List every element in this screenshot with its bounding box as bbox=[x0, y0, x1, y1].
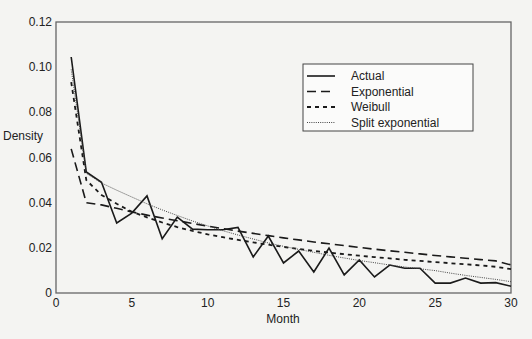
y-axis: 00.020.040.060.080.100.12 bbox=[29, 15, 53, 300]
x-tick-label: 10 bbox=[201, 296, 215, 310]
x-axis-label: Month bbox=[266, 312, 299, 326]
density-chart: 051015202530 00.020.040.060.080.100.12 M… bbox=[0, 0, 532, 339]
legend-label: Split exponential bbox=[351, 116, 439, 130]
x-tick-label: 15 bbox=[277, 296, 291, 310]
y-tick-label: 0.12 bbox=[29, 15, 53, 29]
plot-area bbox=[56, 22, 511, 293]
legend: ActualExponentialWeibullSplit exponentia… bbox=[303, 64, 473, 131]
x-axis: 051015202530 bbox=[53, 296, 518, 310]
legend-label: Exponential bbox=[351, 85, 414, 99]
x-tick-label: 20 bbox=[353, 296, 367, 310]
y-tick-label: 0.06 bbox=[29, 151, 53, 165]
x-tick-label: 30 bbox=[504, 296, 518, 310]
y-tick-label: 0.02 bbox=[29, 241, 53, 255]
y-tick-label: 0.08 bbox=[29, 105, 53, 119]
legend-label: Actual bbox=[351, 69, 384, 83]
x-tick-label: 25 bbox=[428, 296, 442, 310]
y-axis-label: Density bbox=[3, 129, 43, 143]
y-tick-label: 0.04 bbox=[29, 196, 53, 210]
y-tick-label: 0.10 bbox=[29, 60, 53, 74]
legend-label: Weibull bbox=[351, 100, 390, 114]
y-tick-label: 0 bbox=[45, 286, 52, 300]
x-tick-label: 5 bbox=[128, 296, 135, 310]
x-tick-label: 0 bbox=[53, 296, 60, 310]
